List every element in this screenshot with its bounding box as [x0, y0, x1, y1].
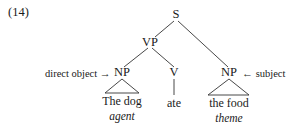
- arrow-right-icon: →: [100, 67, 111, 79]
- triangle-np-right: [208, 79, 249, 95]
- node-vp: VP: [142, 36, 158, 48]
- word-the-food: the food: [209, 97, 249, 109]
- role-theme: theme: [215, 112, 242, 124]
- annotation-direct-object: direct object →: [45, 67, 111, 80]
- node-v: V: [169, 66, 178, 78]
- arrow-left-icon: ←: [242, 67, 253, 79]
- node-np-right: NP: [221, 66, 237, 78]
- tree-lines: [0, 0, 299, 129]
- example-number: (14): [8, 6, 29, 18]
- annotation-subject: ← subject: [242, 67, 285, 80]
- word-the-dog: The dog: [102, 95, 142, 107]
- triangle-np-left: [105, 79, 139, 93]
- annotation-subject-label: subject: [256, 68, 286, 79]
- branch-s-np-right: [178, 21, 228, 67]
- annotation-direct-object-label: direct object: [45, 68, 97, 79]
- node-np-left: NP: [114, 66, 130, 78]
- word-ate: ate: [167, 97, 181, 109]
- node-s: S: [173, 8, 180, 20]
- role-agent: agent: [109, 110, 135, 122]
